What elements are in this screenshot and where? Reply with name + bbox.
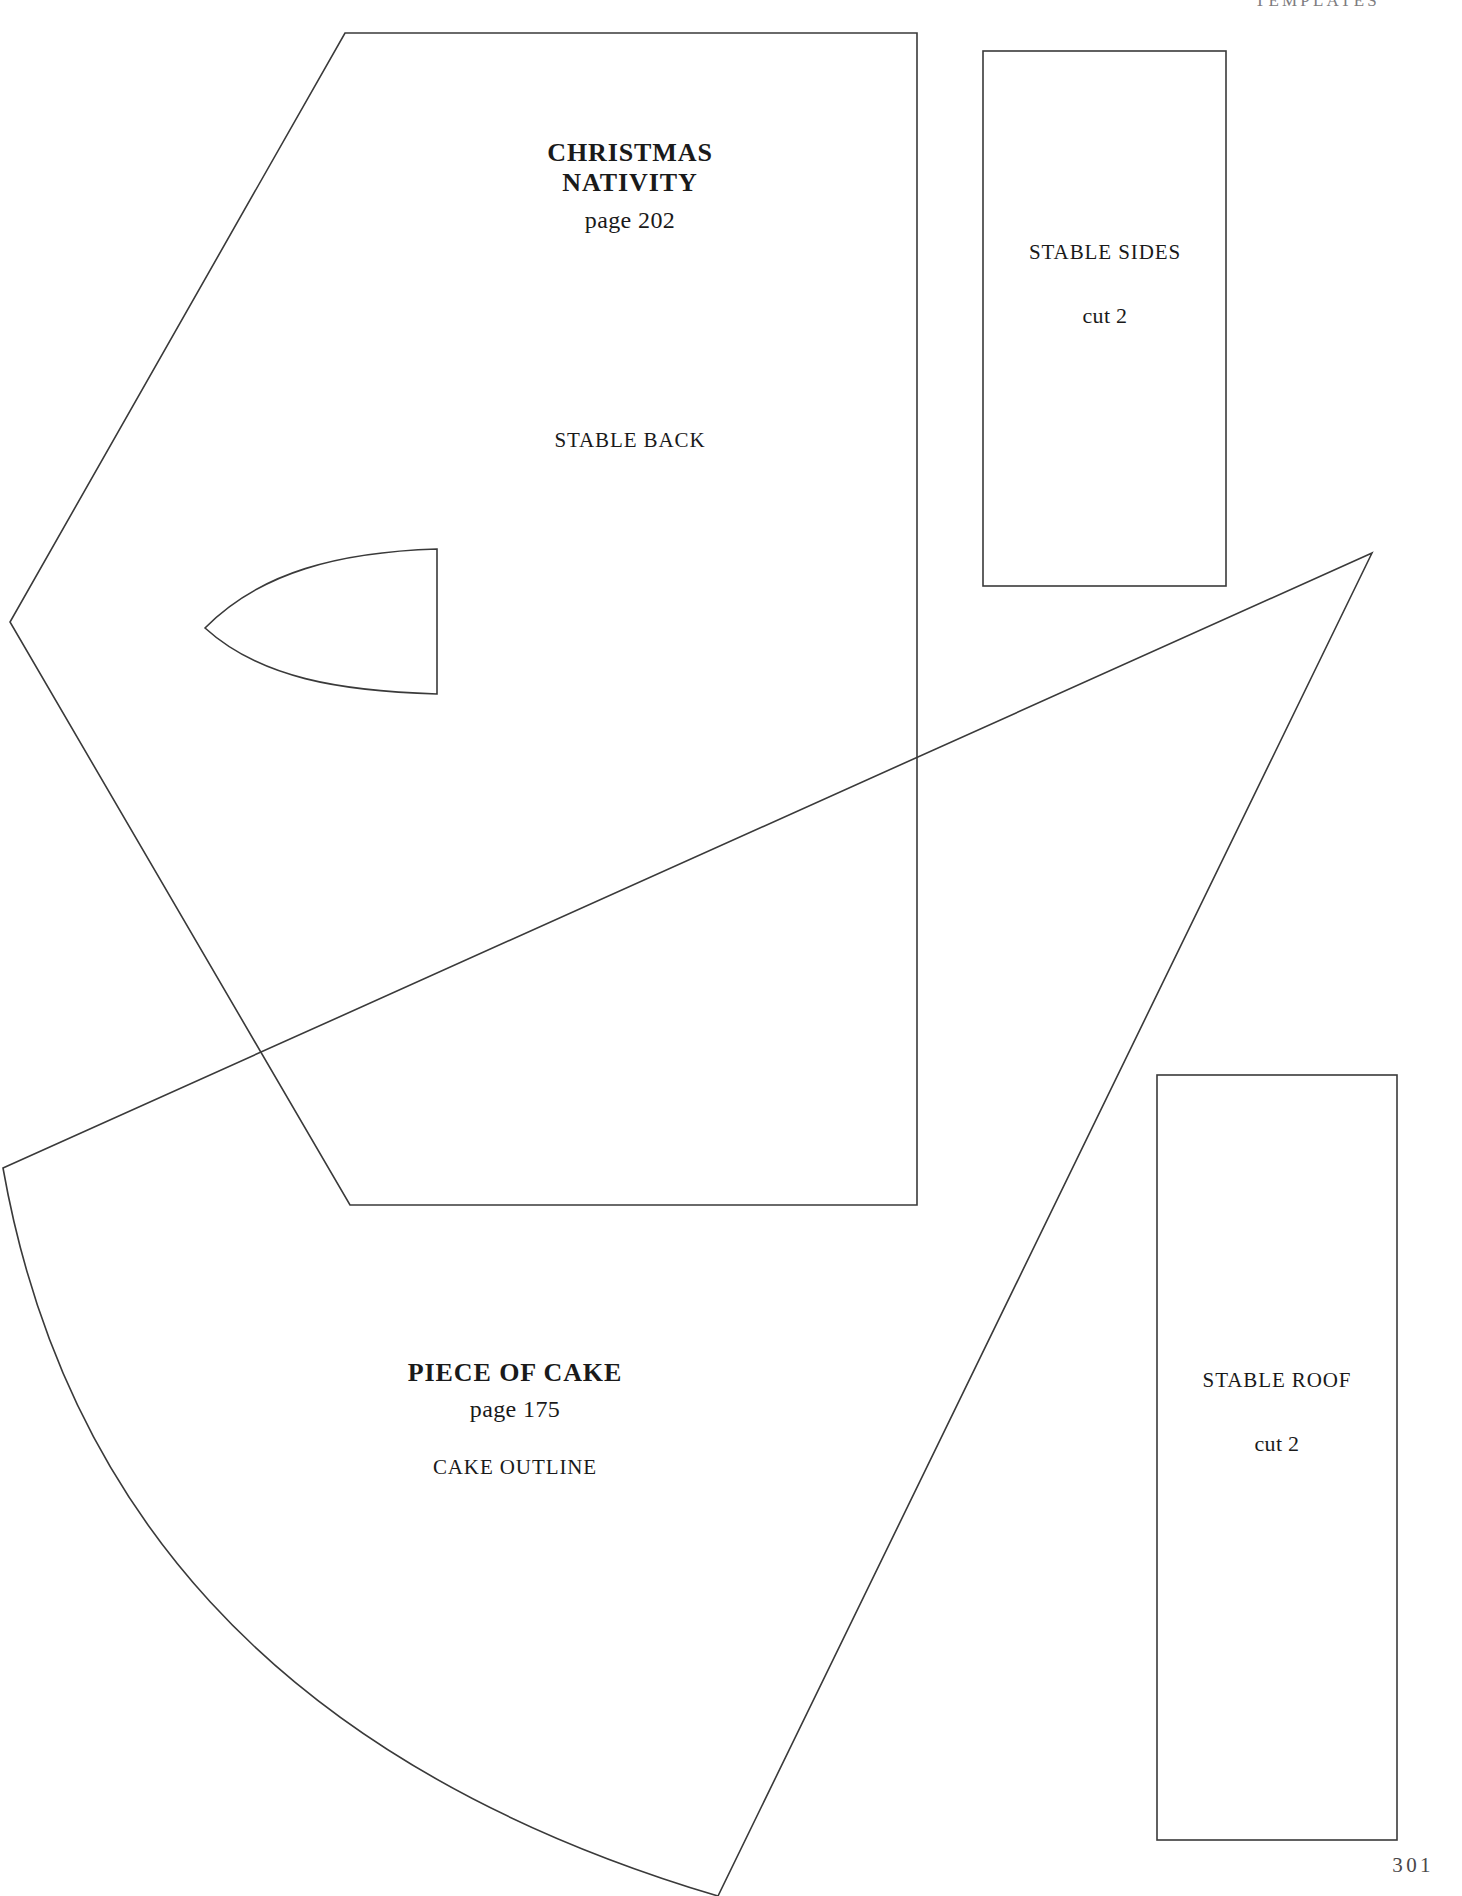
piece-of-cake-title-block: PIECE OF CAKE page 175 CAKE OUTLINE (405, 1358, 625, 1480)
stable-roof-label-block: STABLE ROOF cut 2 (1167, 1368, 1387, 1457)
christmas-nativity-page-ref: page 202 (520, 207, 740, 234)
cake-outline-shape (3, 553, 1372, 1896)
stable-sides-cut-label: cut 2 (995, 303, 1215, 329)
christmas-nativity-title-line-1: CHRISTMAS (520, 138, 740, 168)
piece-of-cake-title: PIECE OF CAKE (405, 1358, 625, 1388)
stable-back-outline (10, 33, 917, 1205)
stable-roof-label: STABLE ROOF (1167, 1368, 1387, 1393)
stable-sides-label: STABLE SIDES (995, 240, 1215, 265)
stable-roof-cut-label: cut 2 (1167, 1431, 1387, 1457)
piece-of-cake-page-ref: page 175 (405, 1396, 625, 1423)
stable-back-arch-cutout (205, 549, 437, 694)
cake-outline-label: CAKE OUTLINE (405, 1455, 625, 1480)
stable-back-label-block: STABLE BACK (520, 428, 740, 453)
page-number: 301 (1392, 1853, 1434, 1878)
stable-back-label: STABLE BACK (520, 428, 740, 453)
template-page: TEMPLATES CHRISTMAS NATIVITY page 202 ST… (0, 0, 1462, 1896)
christmas-nativity-title-line-2: NATIVITY (520, 168, 740, 198)
template-artwork (0, 0, 1462, 1896)
christmas-nativity-title-block: CHRISTMAS NATIVITY page 202 (520, 138, 740, 234)
stable-sides-label-block: STABLE SIDES cut 2 (995, 240, 1215, 329)
stable-roof-outline (1157, 1075, 1397, 1840)
